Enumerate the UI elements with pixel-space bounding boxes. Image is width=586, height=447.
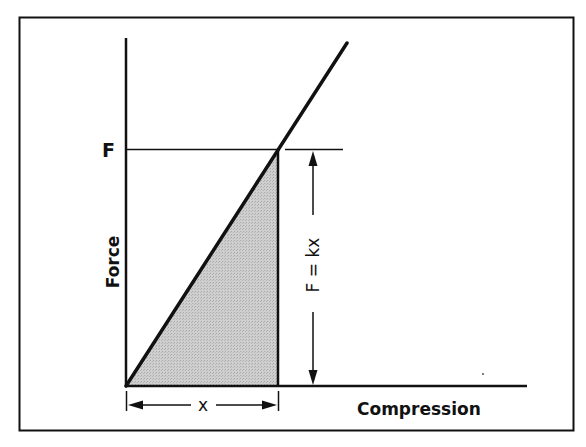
y-axis-label: Force (103, 236, 123, 289)
force-compression-diagram: F Force Compression F = kx x (0, 0, 586, 447)
arrow-left-icon (128, 401, 143, 410)
displacement-label: x (198, 395, 208, 415)
x-axis-label: Compression (357, 399, 481, 419)
arrow-right-icon (262, 401, 277, 410)
equation-label: F = kx (303, 238, 323, 293)
arrow-up-icon (309, 151, 318, 166)
figure-frame (20, 18, 574, 431)
force-level-label: F (102, 139, 115, 161)
arrow-down-icon (309, 370, 318, 385)
print-speck (482, 373, 484, 375)
